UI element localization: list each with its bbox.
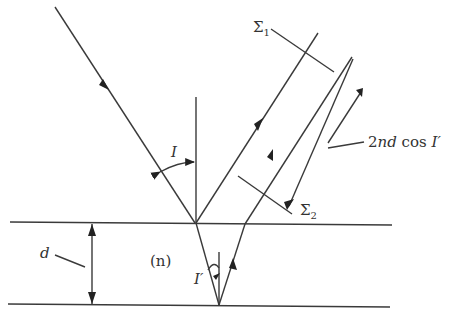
path-difference-arrow-icon: [356, 88, 363, 97]
emergent-arrow-icon: [267, 149, 273, 161]
path-parallel-ray: [289, 59, 353, 206]
refractive-index-label: (n): [150, 252, 171, 270]
sigma1-label: Σ1: [253, 18, 270, 38]
sigma2-label: Σ2: [300, 201, 317, 221]
wavefront-sigma1: [271, 29, 334, 72]
refracted-up-arrow-icon: [229, 258, 237, 270]
incident-arrow-icon: [99, 79, 109, 90]
incident-ray: [55, 7, 195, 223]
path-difference-label: 2nd cos I′: [368, 133, 441, 151]
path-difference-leader: [328, 142, 364, 148]
thickness-label: d: [40, 244, 50, 262]
path-parallel-arrow-icon: [284, 199, 294, 210]
thickness-arrow-bottom-icon: [88, 292, 96, 304]
angle-i-label: I: [170, 143, 178, 161]
thickness-arrow-top-icon: [88, 224, 96, 236]
reflected-arrow-icon: [254, 118, 263, 131]
angle-i-arc: [160, 162, 194, 172]
thin-film-diagram: Σ1 Σ2 I I′ 2nd cos I′ d (n): [0, 0, 452, 316]
path-difference-arrow: [328, 92, 361, 143]
top-surface: [10, 222, 392, 225]
thickness-leader: [55, 255, 85, 267]
emergent-ray-2: [245, 57, 352, 224]
bottom-surface: [8, 304, 390, 307]
wavefront-sigma2: [238, 176, 292, 214]
angle-i-prime-label: I′: [193, 270, 204, 288]
